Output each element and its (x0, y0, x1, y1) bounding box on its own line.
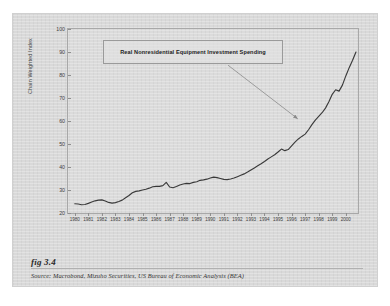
x-axis-tickmark-1990 (210, 213, 211, 216)
y-axis-tick-20: 20 (59, 210, 68, 216)
x-axis-tick-1992: 1992 (232, 217, 242, 222)
chart-container: Chain Weighted Index 2030405060708090100… (31, 22, 363, 248)
x-axis-tick-1988: 1988 (178, 217, 188, 222)
x-axis-tick-1993: 1993 (246, 217, 256, 222)
figure-number: fig 3.4 (31, 257, 363, 267)
x-axis-tickmark-1987 (170, 213, 171, 216)
x-axis-tickmark-1984 (129, 213, 130, 216)
x-axis-tick-1986: 1986 (151, 217, 161, 222)
caption-divider (31, 268, 363, 269)
y-axis-tick-100: 100 (56, 26, 68, 32)
figure-source: Source: Macrobond, Mizuho Securities, US… (31, 272, 363, 279)
y-axis-tick-30: 30 (59, 187, 68, 193)
x-axis-tickmark-1994 (264, 213, 265, 216)
y-axis-tick-50: 50 (59, 141, 68, 147)
x-axis-tickmark-1991 (224, 213, 225, 216)
x-axis-tickmark-1983 (115, 213, 116, 216)
x-axis-tick-1983: 1983 (110, 217, 120, 222)
figure-caption-block: fig 3.4 Source: Macrobond, Mizuho Securi… (31, 257, 363, 279)
x-axis-tickmark-1989 (197, 213, 198, 216)
x-axis-tick-1982: 1982 (97, 217, 107, 222)
x-axis-tickmark-1993 (251, 213, 252, 216)
x-axis-tickmark-1985 (143, 213, 144, 216)
screenshot-root: Chain Weighted Index 2030405060708090100… (0, 0, 390, 306)
x-axis-tickmark-1998 (319, 213, 320, 216)
y-axis-label: Chain Weighted Index (27, 38, 33, 94)
chart-annotation-text: Real Nonresidential Equipment Investment… (120, 49, 266, 56)
x-axis-tick-1980: 1980 (70, 217, 80, 222)
x-axis-tickmark-1997 (305, 213, 306, 216)
x-axis-tickmark-1981 (88, 213, 89, 216)
x-axis-tickmark-1982 (102, 213, 103, 216)
x-axis-tick-1995: 1995 (273, 217, 283, 222)
y-axis-tick-80: 80 (59, 72, 68, 78)
x-axis-tickmark-1996 (292, 213, 293, 216)
x-axis-tickmark-1992 (237, 213, 238, 216)
y-axis-tick-60: 60 (59, 118, 68, 124)
x-axis-tick-1981: 1981 (83, 217, 93, 222)
x-axis-tick-1984: 1984 (124, 217, 134, 222)
x-axis-tickmark-1986 (156, 213, 157, 216)
y-axis-tick-90: 90 (59, 49, 68, 55)
x-axis-tick-1999: 1999 (327, 217, 337, 222)
x-axis-tick-1996: 1996 (286, 217, 296, 222)
x-axis-tick-1989: 1989 (192, 217, 202, 222)
x-axis-tickmark-1995 (278, 213, 279, 216)
y-axis-tick-40: 40 (59, 164, 68, 170)
figure-sheet: Chain Weighted Index 2030405060708090100… (13, 14, 377, 286)
chart-annotation-box: Real Nonresidential Equipment Investment… (103, 40, 283, 64)
x-axis-tickmark-1980 (75, 213, 76, 216)
x-axis-tick-2000: 2000 (341, 217, 351, 222)
x-axis-tick-1987: 1987 (165, 217, 175, 222)
x-axis-tick-1991: 1991 (219, 217, 229, 222)
x-axis-tickmark-1999 (332, 213, 333, 216)
x-axis-tick-1998: 1998 (314, 217, 324, 222)
series-line (75, 52, 356, 205)
x-axis-tick-1997: 1997 (300, 217, 310, 222)
y-axis-tick-70: 70 (59, 95, 68, 101)
x-axis-tick-1985: 1985 (137, 217, 147, 222)
x-axis-tick-1990: 1990 (205, 217, 215, 222)
x-axis-tickmark-1988 (183, 213, 184, 216)
x-axis-tick-1994: 1994 (259, 217, 269, 222)
x-axis-tickmark-2000 (346, 213, 347, 216)
